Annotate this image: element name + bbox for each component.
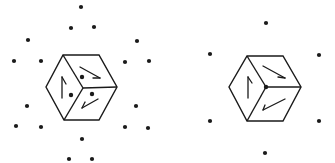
lattice-dot: [146, 126, 150, 130]
cube-edge: [247, 87, 266, 121]
arrow-left-face: [62, 77, 66, 98]
lattice-dot: [147, 59, 151, 63]
arrow-bottom-face: [82, 99, 98, 108]
lattice-dot: [135, 39, 139, 43]
arrow-shaft: [263, 66, 285, 78]
lattice-dot: [317, 119, 321, 123]
lattice-dot: [14, 124, 18, 128]
cube-edge: [64, 88, 83, 120]
figure-canvas: [0, 0, 335, 163]
lattice-dot: [80, 137, 84, 141]
lattice-dot: [317, 53, 321, 57]
arrow-top-face: [263, 66, 285, 78]
arrow-shaft: [263, 99, 285, 110]
cube-edge: [247, 56, 266, 87]
lattice-dot: [123, 60, 127, 64]
lattice-dot: [12, 59, 16, 63]
cube-dot-diagram: [0, 0, 335, 163]
lattice-dot: [263, 151, 267, 155]
lattice-dot: [69, 26, 73, 30]
inner-dot: [80, 75, 84, 79]
lattice-dot: [123, 125, 127, 129]
lattice-dot: [90, 157, 94, 161]
lattice-dot: [208, 119, 212, 123]
lattice-dot: [39, 59, 43, 63]
lattice-dot: [92, 25, 96, 29]
lattice-dot: [25, 104, 29, 108]
lattice-dot: [39, 125, 43, 129]
lattice-dot: [208, 52, 212, 56]
arrow-bottom-face: [263, 99, 285, 110]
panel-left: [12, 5, 151, 161]
arrow-left-face: [248, 77, 252, 98]
lattice-dot: [26, 38, 30, 42]
cube-edge: [83, 87, 117, 88]
inner-dot: [90, 92, 94, 96]
lattice-dot: [79, 5, 83, 9]
lattice-dot: [67, 157, 71, 161]
inner-dot: [264, 85, 268, 89]
lattice-dot: [134, 104, 138, 108]
panel-right: [208, 21, 321, 155]
inner-dot: [69, 93, 73, 97]
lattice-dot: [264, 21, 268, 25]
